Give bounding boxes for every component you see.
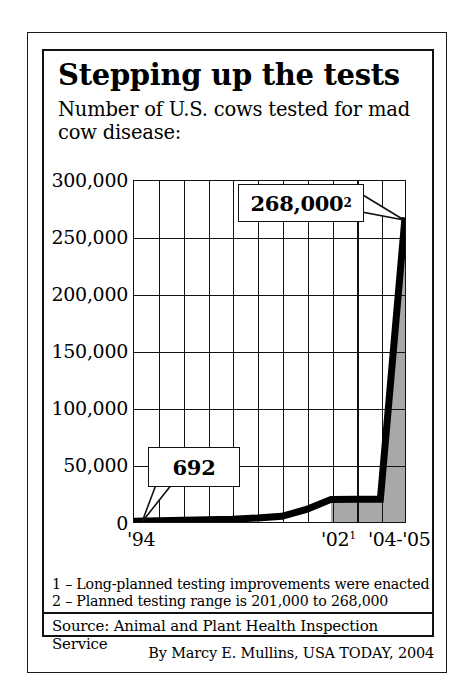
x-tick-label-94: '94	[127, 528, 155, 550]
x-tick-label-02: '021	[321, 528, 356, 550]
callout-start-label: 692	[173, 455, 216, 480]
y-tick-label: 50,000	[36, 456, 128, 475]
footnote-2: 2 – Planned testing range is 201,000 to …	[52, 593, 430, 610]
y-tick-label: 250,000	[36, 228, 128, 247]
x-tick-label-04-05: '04-'05	[368, 528, 430, 550]
x-tick-label-04: '04	[368, 528, 396, 550]
callout-start-value: 692	[148, 447, 240, 487]
footnote-divider	[43, 612, 433, 614]
footnote-1: 1 – Long-planned testing improvements we…	[52, 576, 430, 593]
callout-end-value: 268,0002	[238, 184, 364, 222]
y-tick-label: 150,000	[36, 342, 128, 361]
credit-line: By Marcy E. Mullins, USA TODAY, 2004	[52, 645, 434, 661]
x-axis-labels: '94 '021 '04-'05	[110, 528, 440, 556]
x-tick-label-02-superscript: 1	[349, 529, 356, 542]
callout-end-superscript: 2	[343, 196, 351, 210]
y-tick-label: 300,000	[36, 171, 128, 190]
y-tick-label: 100,000	[36, 399, 128, 418]
y-tick-label: 200,000	[36, 285, 128, 304]
x-tick-label-05: '05	[402, 528, 430, 550]
footnotes: 1 – Long-planned testing improvements we…	[52, 576, 430, 610]
x-tick-label-02-text: '02	[321, 528, 349, 550]
callout-end-label: 268,000	[251, 191, 344, 216]
